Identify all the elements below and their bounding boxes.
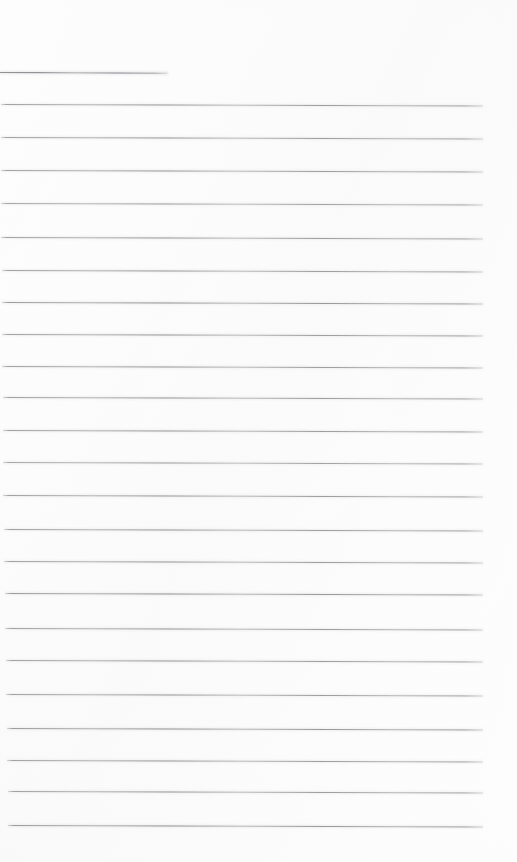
writing-rule-06 (2, 270, 483, 273)
writing-rule-12 (3, 462, 483, 465)
writing-rule-01 (1, 104, 483, 107)
scanned-page (0, 0, 517, 862)
writing-rule-15 (4, 561, 483, 564)
writing-rule-08 (2, 334, 483, 337)
ruled-lines-layer (0, 0, 517, 862)
writing-rule-21 (7, 760, 483, 762)
writing-rule-02 (1, 137, 483, 140)
writing-rule-13 (3, 495, 483, 498)
writing-rule-20 (7, 728, 483, 730)
writing-rule-09 (2, 366, 483, 369)
writing-rule-14 (4, 529, 483, 532)
writing-rule-03 (1, 170, 483, 173)
writing-rule-04 (1, 203, 483, 206)
writing-rule-10 (3, 397, 483, 400)
writing-rule-19 (6, 694, 483, 696)
writing-rule-23 (8, 825, 483, 827)
title-rule (0, 72, 168, 74)
writing-rule-07 (2, 302, 483, 305)
writing-rule-18 (6, 660, 483, 662)
writing-rule-22 (8, 791, 483, 793)
writing-rule-05 (1, 237, 483, 240)
writing-rule-16 (5, 593, 483, 596)
writing-rule-17 (5, 628, 483, 631)
writing-rule-11 (3, 430, 483, 433)
